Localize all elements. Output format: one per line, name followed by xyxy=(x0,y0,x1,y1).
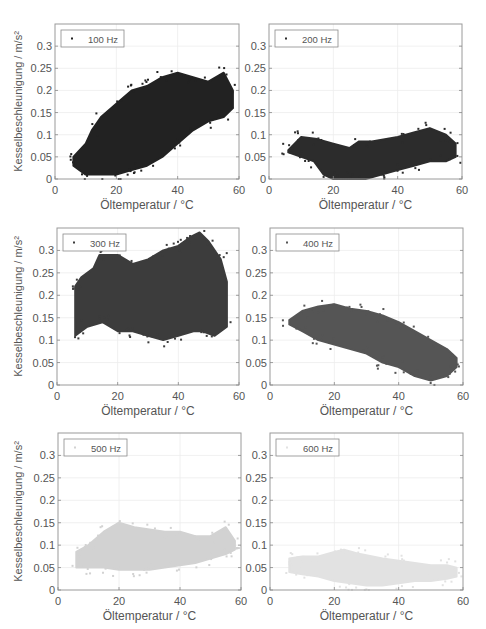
y-tick-label: 0.2 xyxy=(252,494,267,506)
y-tick-label: 0.3 xyxy=(252,449,267,461)
legend: 400 Hz xyxy=(276,234,339,251)
y-tick-label: 0.15 xyxy=(246,517,267,529)
x-tick-label: 0 xyxy=(267,390,273,402)
y-tick-label: 0.2 xyxy=(37,84,52,96)
x-axis-label: Öltemperatur / °C xyxy=(320,404,414,418)
y-tick-label: 0.2 xyxy=(251,84,266,96)
x-axis-label: Öltemperatur / °C xyxy=(103,609,197,623)
x-tick-label: 60 xyxy=(457,595,469,607)
y-tick-label: 0.15 xyxy=(33,312,54,324)
x-tick-label: 20 xyxy=(112,390,124,402)
x-tick-label: 20 xyxy=(327,184,339,196)
legend-label: 300 Hz xyxy=(90,238,120,249)
scatter-panel-100-hz: 00.050.10.150.20.250.30204060Öltemperatu… xyxy=(12,24,245,212)
figure: 00.050.10.150.20.250.30204060Öltemperatu… xyxy=(0,0,486,629)
y-tick-label: 0.2 xyxy=(40,494,55,506)
y-tick-label: 0.05 xyxy=(246,357,267,369)
x-tick-label: 40 xyxy=(393,595,405,607)
scatter-panel-200-hz: 00.050.10.150.20.250.30204060Öltemperatu… xyxy=(245,24,469,212)
x-tick-label: 0 xyxy=(55,595,61,607)
legend: 300 Hz xyxy=(63,234,126,251)
y-axis-label: Kesselbeschleunigung / m/s² xyxy=(12,236,24,377)
x-axis-label: Öltemperatur / °C xyxy=(101,404,195,418)
y-tick-label: 0.3 xyxy=(39,244,54,256)
y-tick-label: 0.1 xyxy=(40,539,55,551)
y-tick-label: 0.25 xyxy=(33,267,54,279)
y-tick-label: 0.05 xyxy=(33,357,54,369)
y-tick-label: 0.15 xyxy=(34,517,55,529)
x-tick-label: 40 xyxy=(172,184,184,196)
point-cloud xyxy=(73,73,233,175)
x-tick-label: 0 xyxy=(54,390,60,402)
y-tick-label: 0.25 xyxy=(245,62,266,74)
y-tick-label: 0.1 xyxy=(251,129,266,141)
x-axis-label: Öltemperatur / °C xyxy=(100,198,194,212)
x-tick-label: 20 xyxy=(113,595,125,607)
x-tick-label: 60 xyxy=(457,390,469,402)
y-tick-label: 0.1 xyxy=(39,334,54,346)
x-tick-label: 0 xyxy=(52,184,58,196)
y-tick-label: 0.3 xyxy=(252,244,267,256)
x-tick-label: 20 xyxy=(110,184,122,196)
y-tick-label: 0.25 xyxy=(31,62,52,74)
x-axis-label: Öltemperatur / °C xyxy=(319,198,413,212)
y-tick-label: 0.05 xyxy=(34,562,55,574)
y-tick-label: 0.1 xyxy=(252,334,267,346)
y-tick-label: 0.25 xyxy=(246,267,267,279)
point-cloud xyxy=(289,550,456,586)
y-tick-label: 0.05 xyxy=(246,562,267,574)
y-tick-label: 0.1 xyxy=(252,539,267,551)
x-tick-label: 60 xyxy=(233,390,245,402)
x-tick-label: 20 xyxy=(328,595,340,607)
y-axis-label: Kesselbeschleunigung / m/s² xyxy=(12,441,24,582)
y-tick-label: 0.15 xyxy=(246,312,267,324)
y-tick-label: 0.3 xyxy=(40,449,55,461)
legend: 200 Hz xyxy=(275,30,338,47)
scatter-panel-500-hz: 00.050.10.150.20.250.30204060Öltemperatu… xyxy=(12,433,247,623)
x-tick-label: 0 xyxy=(267,595,273,607)
x-tick-label: 60 xyxy=(233,184,245,196)
y-tick-label: 0.25 xyxy=(246,472,267,484)
x-tick-label: 0 xyxy=(266,184,272,196)
x-tick-label: 40 xyxy=(392,184,404,196)
x-tick-label: 20 xyxy=(328,390,340,402)
scatter-panel-600-hz: 00.050.10.150.20.250.30204060Öltemperatu… xyxy=(246,433,470,623)
y-tick-label: 0.15 xyxy=(245,107,266,119)
y-tick-label: 0.2 xyxy=(39,289,54,301)
legend-label: 200 Hz xyxy=(302,34,332,45)
legend-label: 100 Hz xyxy=(88,34,118,45)
y-tick-label: 0.2 xyxy=(252,289,267,301)
x-tick-label: 40 xyxy=(393,390,405,402)
x-axis-label: Öltemperatur / °C xyxy=(320,609,414,623)
y-tick-label: 0.3 xyxy=(37,40,52,52)
legend: 100 Hz xyxy=(61,30,124,47)
scatter-panel-300-hz: 00.050.10.150.20.250.30204060Öltemperatu… xyxy=(12,228,245,418)
y-tick-label: 0.05 xyxy=(31,151,52,163)
y-tick-label: 0.25 xyxy=(34,472,55,484)
y-tick-label: 0.3 xyxy=(251,40,266,52)
y-tick-label: 0.05 xyxy=(245,151,266,163)
figure-svg: 00.050.10.150.20.250.30204060Öltemperatu… xyxy=(0,0,486,629)
x-tick-label: 60 xyxy=(235,595,247,607)
legend: 500 Hz xyxy=(64,439,127,456)
point-cloud xyxy=(288,128,455,179)
y-tick-label: 0.15 xyxy=(31,107,52,119)
legend: 600 Hz xyxy=(276,439,339,456)
x-tick-label: 40 xyxy=(174,595,186,607)
scatter-panel-400-hz: 00.050.10.150.20.250.30204060Öltemperatu… xyxy=(246,228,470,418)
legend-label: 600 Hz xyxy=(303,443,333,454)
point-cloud xyxy=(76,523,235,570)
y-axis-label: Kesselbeschleunigung / m/s² xyxy=(12,31,24,172)
y-tick-label: 0.1 xyxy=(37,129,52,141)
x-tick-label: 60 xyxy=(456,184,468,196)
x-tick-label: 40 xyxy=(172,390,184,402)
legend-label: 500 Hz xyxy=(91,443,121,454)
legend-label: 400 Hz xyxy=(303,238,333,249)
